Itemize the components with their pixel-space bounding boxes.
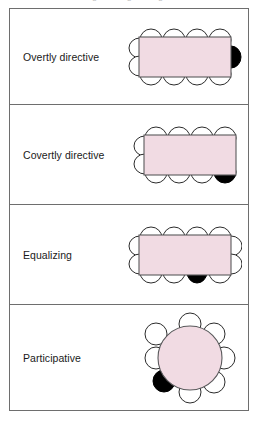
panel-participative: Participative	[10, 305, 248, 410]
seating-diagram-overtly-directive	[116, 20, 242, 94]
panel-equalizing: Equalizing	[10, 205, 248, 305]
panel-label-covertly-directive: Covertly directive	[23, 148, 104, 161]
table-surface	[139, 37, 231, 77]
seating-diagram-covertly-directive	[116, 118, 242, 192]
figure-frame: Overtly directive	[9, 8, 249, 411]
table-surface	[158, 326, 222, 390]
table-surface	[144, 135, 236, 175]
panel-label-participative: Participative	[23, 351, 81, 364]
panel-label-overtly-directive: Overtly directive	[23, 50, 99, 63]
seating-arrangement-figure: Meeting seating arrangements Overtly dir…	[0, 0, 258, 421]
seating-diagram-participative	[116, 312, 242, 404]
seating-diagram-equalizing	[116, 216, 242, 294]
panel-covertly-directive: Covertly directive	[10, 105, 248, 205]
panel-overtly-directive: Overtly directive	[10, 9, 248, 105]
table-surface	[139, 235, 231, 275]
figure-title-remnant: Meeting seating arrangements	[0, 0, 258, 5]
panel-label-equalizing: Equalizing	[23, 248, 72, 261]
figure-title-text: Meeting seating arrangements	[63, 0, 196, 1]
